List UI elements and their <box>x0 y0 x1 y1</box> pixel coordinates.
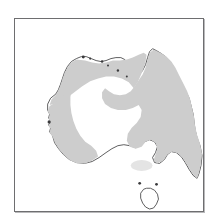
coastal-dot-north-3 <box>101 60 104 63</box>
map-frame <box>14 18 204 212</box>
coastal-dot-west-1 <box>48 120 51 123</box>
australia-distribution-map <box>15 19 203 211</box>
coastal-dot-bass-2 <box>155 183 158 186</box>
tasmania <box>141 188 159 209</box>
coastal-dot-north-1 <box>82 56 85 59</box>
tasmania-outline <box>141 188 159 209</box>
range-area-victoria-faint <box>131 160 153 171</box>
coastal-dot-gulf-1 <box>117 69 119 71</box>
coastal-dot-gulf-2 <box>126 75 128 77</box>
shaded-range-victoria-patch <box>131 160 153 171</box>
figure-page <box>0 0 214 224</box>
coastal-dot-bass-1 <box>138 182 141 185</box>
coastal-dot-north-2 <box>89 57 91 59</box>
coastal-dot-north-4 <box>107 65 109 67</box>
